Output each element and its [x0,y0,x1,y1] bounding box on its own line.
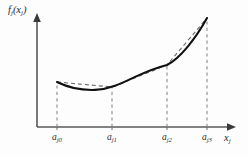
tick-label-aj1: aj1 [107,133,117,143]
y-axis-label-f-sub: j [11,9,13,17]
tick-label-aj0-sub: j0 [57,136,62,143]
convex-function-curve [57,18,207,90]
piecewise-linear-approximation-chart [0,0,248,155]
x-axis-label-x: x [224,132,229,143]
piecewise-linear-chords [57,18,207,87]
figure-container: fj(xj) xj aj0 aj1 aj2 aj3 [0,0,248,155]
y-axis-label-arg-close: ) [23,4,27,15]
tick-label-aj0: aj0 [52,133,62,143]
tick-label-aj2-sub: j2 [167,136,172,143]
tick-label-aj2: aj2 [162,133,172,143]
tick-label-aj3-sub: j3 [207,136,212,143]
y-axis-label-arg-sub: j [21,9,23,17]
y-axis-label-arg-open: (x [13,4,21,15]
tick-label-aj3: aj3 [202,133,212,143]
x-axis-label-sub: j [229,137,231,145]
y-axis-label: fj(xj) [8,5,27,16]
x-axis [37,123,236,131]
tick-label-aj1-sub: j1 [112,136,117,143]
y-axis [33,13,41,127]
breakpoint-droplines [57,18,207,127]
x-axis-label: xj [224,133,231,144]
